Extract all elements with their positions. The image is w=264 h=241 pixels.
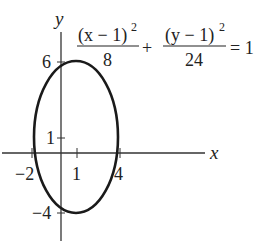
eq-equals: = 1 — [230, 38, 254, 58]
eq-term2-exponent: 2 — [219, 20, 225, 34]
x-tick-label-1: 1 — [72, 164, 81, 184]
x-tick-label-4: 4 — [114, 164, 123, 184]
y-axis-label: y — [53, 8, 64, 29]
eq-term2-numerator: (y − 1) — [165, 25, 214, 46]
x-axis-label: x — [209, 142, 219, 163]
x-tick-label-neg2: −2 — [15, 164, 34, 184]
y-tick-label-6: 6 — [42, 52, 51, 72]
y-tick-label-1: 1 — [46, 128, 55, 148]
ellipse-graph: y x −2 1 4 6 1 −4 (x − 1) 2 8 + (y − 1) … — [0, 0, 264, 241]
eq-term1-numerator: (x − 1) — [78, 25, 127, 46]
eq-term1-exponent: 2 — [131, 20, 137, 34]
eq-plus: + — [142, 38, 152, 58]
eq-term1-denominator: 8 — [103, 50, 112, 70]
y-tick-label-neg4: −4 — [32, 203, 51, 223]
equation: (x − 1) 2 8 + (y − 1) 2 24 = 1 — [77, 20, 254, 70]
eq-term2-denominator: 24 — [185, 50, 203, 70]
